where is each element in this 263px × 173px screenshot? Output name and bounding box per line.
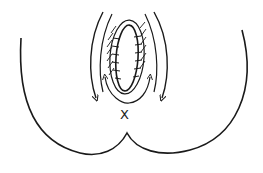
diagram-canvas: X	[0, 0, 263, 173]
incision-ellipse	[114, 24, 141, 91]
anatomical-sketch-svg	[0, 0, 263, 173]
outer-arrow-right-inner	[145, 14, 157, 92]
outer-contour	[21, 30, 248, 154]
x-mark: X	[120, 108, 129, 121]
